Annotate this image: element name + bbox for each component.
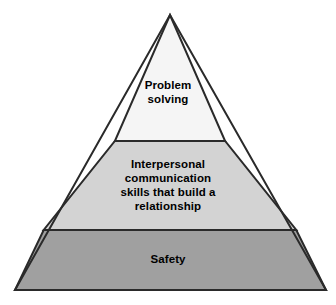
pyramid-diagram: Problem solving Interpersonal communicat… (0, 0, 336, 305)
pyramid-tier-bottom-label: Safety (0, 252, 336, 266)
pyramid-tier-middle-label: Interpersonal communication skills that … (0, 157, 336, 213)
pyramid-tier-top-label: Problem solving (0, 78, 336, 106)
